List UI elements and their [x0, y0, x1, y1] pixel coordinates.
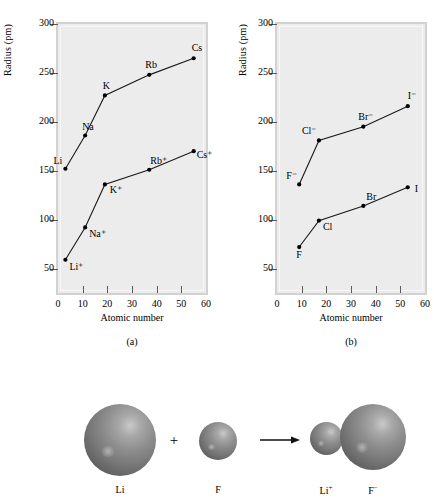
- sphere-label-li: Li: [116, 484, 125, 495]
- y-tick-label: 200: [258, 115, 273, 126]
- ion-formation-illustration: Li + F Li+ F−: [0, 384, 434, 498]
- sphere-label-li-cation: Li+: [320, 484, 333, 496]
- chart-panel-a: Radius (pm) 5010015020025030001020304050…: [0, 0, 217, 362]
- plot-area-b: 501001502002503000102030405060F⁻Cl⁻Br⁻I⁻…: [277, 24, 425, 293]
- chart-panel-b: Radius (pm) 5010015020025030001020304050…: [217, 0, 434, 362]
- data-point-F: [297, 245, 301, 249]
- x-tick-label: 40: [371, 298, 381, 309]
- data-point-Br: [361, 204, 365, 208]
- sphere-fluorine-atom: [199, 422, 237, 460]
- x-axis-label-b: Atomic number: [275, 312, 427, 323]
- x-tick-label: 10: [297, 298, 307, 309]
- y-tick-label: 100: [258, 213, 273, 224]
- y-tick-label: 250: [258, 66, 273, 77]
- sphere-lithium-atom: [84, 404, 156, 476]
- x-tick-label: 50: [176, 298, 186, 309]
- data-point-K⁺: [103, 182, 107, 186]
- data-point-I⁻: [406, 104, 410, 108]
- x-tick-label: 20: [102, 298, 112, 309]
- plot-frame-b: 501001502002503000102030405060F⁻Cl⁻Br⁻I⁻…: [275, 22, 427, 295]
- data-point-Cs: [192, 56, 196, 60]
- data-point-Br⁻: [361, 125, 365, 129]
- data-point-I: [406, 185, 410, 189]
- data-point-K: [103, 93, 107, 97]
- sphere-fluoride-anion: [340, 404, 406, 470]
- series-line-1: [299, 187, 408, 247]
- y-tick-label: 300: [258, 17, 273, 28]
- y-tick-label: 150: [258, 164, 273, 175]
- x-tick-label: 60: [420, 298, 430, 309]
- y-tick-label: 300: [39, 17, 54, 28]
- series-layer: [277, 24, 425, 293]
- plot-frame-a: 501001502002503000102030405060LiNaKRbCsL…: [56, 22, 208, 295]
- x-axis-label-a: Atomic number: [56, 312, 208, 323]
- data-point-F⁻: [297, 182, 301, 186]
- x-tick-label: 0: [275, 298, 280, 309]
- plus-symbol: +: [170, 433, 178, 448]
- y-tick-label: 50: [44, 262, 54, 273]
- data-point-Na: [83, 133, 87, 137]
- data-point-Na⁺: [83, 225, 87, 229]
- sphere-label-f: F: [215, 484, 221, 495]
- x-tick-label: 40: [152, 298, 162, 309]
- y-axis-label-a: Radius (pm): [2, 0, 13, 110]
- y-axis-label-b: Radius (pm): [237, 0, 248, 110]
- x-tick-label: 0: [56, 298, 61, 309]
- series-layer: [58, 24, 206, 293]
- data-point-Rb: [147, 73, 151, 77]
- arrow-right-icon: [260, 433, 300, 447]
- data-point-Cl: [317, 219, 321, 223]
- y-tick-label: 250: [39, 66, 54, 77]
- series-line-0: [299, 106, 408, 184]
- x-tick-label: 20: [321, 298, 331, 309]
- sphere-lithium-cation: [310, 422, 343, 455]
- data-point-Cl⁻: [317, 138, 321, 142]
- series-line-1: [65, 151, 193, 260]
- x-tick-label: 30: [127, 298, 137, 309]
- y-tick-label: 50: [263, 262, 273, 273]
- plot-area-a: 501001502002503000102030405060LiNaKRbCsL…: [58, 24, 206, 293]
- caption-b: (b): [275, 336, 427, 347]
- x-tick-label: 30: [346, 298, 356, 309]
- x-tick-label: 50: [395, 298, 405, 309]
- y-tick-label: 200: [39, 115, 54, 126]
- caption-a: (a): [56, 336, 208, 347]
- data-point-Li: [63, 167, 67, 171]
- series-line-0: [65, 58, 193, 169]
- data-point-Li⁺: [63, 258, 67, 262]
- data-point-Cs⁺: [192, 149, 196, 153]
- y-tick-label: 100: [39, 213, 54, 224]
- x-tick-label: 60: [201, 298, 211, 309]
- y-tick-label: 150: [39, 164, 54, 175]
- x-tick-label: 10: [78, 298, 88, 309]
- sphere-label-fluoride: F−: [368, 484, 378, 496]
- data-point-Rb⁺: [147, 168, 151, 172]
